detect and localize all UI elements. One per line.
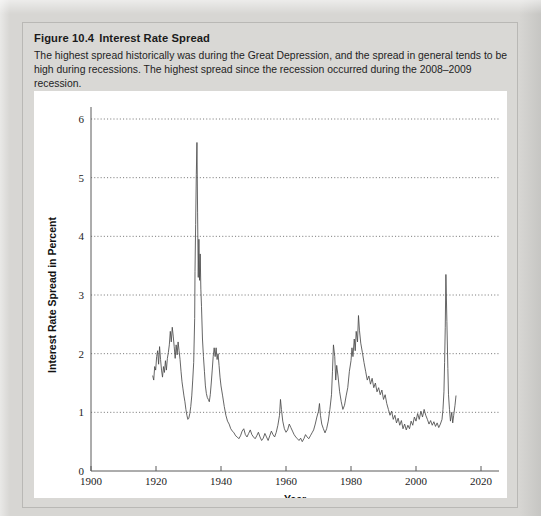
y-axis-title: Interest Rate Spread in Percent: [46, 217, 58, 373]
y-tick-label-6: 6: [79, 113, 85, 125]
figure-caption: The highest spread historically was duri…: [34, 49, 508, 92]
x-tick-label-2020: 2020: [470, 475, 493, 487]
y-tick-label-3: 3: [79, 289, 85, 301]
x-tick-label-1940: 1940: [210, 475, 233, 487]
chart-gridlines: [91, 119, 499, 412]
figure-number: Figure 10.4: [34, 32, 94, 44]
y-tick-label-4: 4: [79, 230, 85, 242]
x-tick-label-1920: 1920: [145, 475, 168, 487]
y-tick-label-1: 1: [79, 406, 85, 418]
x-axis-ticks: [91, 466, 481, 471]
data-series-line: [153, 142, 456, 441]
chart-plot-panel: 1900192019401960198020002020 0123456 Yea…: [34, 91, 507, 498]
x-axis-tick-labels: 1900192019401960198020002020: [80, 475, 493, 487]
figure-title: Figure 10.4Interest Rate Spread: [34, 32, 210, 44]
figure-title-text: Interest Rate Spread: [99, 32, 210, 44]
x-axis-title: Year: [284, 493, 306, 498]
interest-rate-spread-line-chart: 1900192019401960198020002020 0123456 Yea…: [34, 91, 507, 498]
figure-container: Figure 10.4Interest Rate Spread The high…: [22, 22, 518, 508]
y-tick-label-5: 5: [79, 172, 85, 184]
x-tick-label-1960: 1960: [275, 475, 298, 487]
x-tick-label-1980: 1980: [340, 475, 363, 487]
y-tick-label-2: 2: [79, 348, 85, 360]
x-tick-label-2000: 2000: [405, 475, 428, 487]
chart-axes: [91, 107, 499, 471]
y-axis-tick-labels: 0123456: [79, 113, 85, 477]
y-tick-label-0: 0: [79, 465, 85, 477]
